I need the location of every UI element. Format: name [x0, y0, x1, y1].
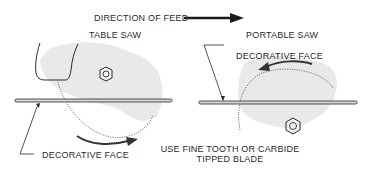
blade-note: USE FINE TOOTH OR CARBIDE TIPPED BLADE — [155, 144, 305, 164]
portable-saw-face-leader — [204, 45, 225, 101]
blade-note-line1: USE FINE TOOTH OR CARBIDE — [155, 144, 305, 154]
direction-of-feed-label: DIRECTION OF FEED — [94, 13, 188, 23]
table-saw-title: TABLE SAW — [89, 30, 141, 40]
portable-saw-face-label: DECORATIVE FACE — [236, 51, 323, 61]
portable-saw-arbor-nut-icon — [286, 118, 300, 134]
table-saw-face-leader — [20, 103, 40, 154]
portable-saw-workpiece — [199, 101, 357, 104]
blade-note-line2: TIPPED BLADE — [155, 154, 305, 164]
table-saw-arbor-nut-icon — [100, 67, 112, 81]
table-saw-shade — [40, 42, 163, 121]
portable-saw-shade — [238, 56, 337, 128]
feed-direction-arrow — [184, 13, 244, 23]
portable-saw-title: PORTABLE SAW — [246, 30, 318, 40]
table-saw-rotation-arrow — [77, 136, 138, 146]
table-saw-face-label: DECORATIVE FACE — [42, 150, 129, 160]
table-saw-workpiece — [15, 99, 172, 102]
